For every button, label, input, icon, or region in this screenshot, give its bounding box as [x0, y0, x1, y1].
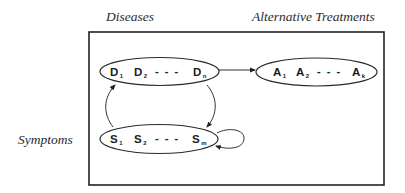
- diseases-label: Diseases: [105, 9, 154, 24]
- symptom-ellipsis: - - -: [155, 132, 180, 144]
- symptoms-label: Symptoms: [18, 132, 73, 147]
- alternative-treatments-label: Alternative Treatments: [251, 9, 375, 24]
- edge-symptoms-self-loop: [216, 130, 244, 149]
- treatments-node: A1 A2 - - - Ak: [256, 58, 377, 86]
- symptoms-node: S1 S2 - - - Sm: [100, 125, 218, 154]
- disease-symptom-treatment-diagram: Diseases Alternative Treatments Symptoms…: [0, 0, 405, 193]
- outer-frame: [89, 32, 384, 185]
- treatment-ellipsis: - - -: [317, 65, 342, 77]
- edge-diseases-to-symptoms: [207, 85, 215, 127]
- edge-symptoms-to-diseases: [106, 85, 115, 127]
- diseases-node: D1 D2 - - - Dn: [100, 58, 219, 86]
- disease-ellipsis: - - -: [155, 65, 180, 77]
